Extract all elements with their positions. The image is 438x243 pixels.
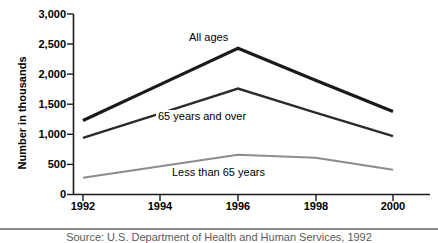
x-axis-ticks bbox=[83, 195, 393, 202]
footer-divider bbox=[0, 228, 438, 230]
series-label-less-than-65: Less than 65 years bbox=[170, 166, 267, 178]
series-label-65-and-over: 65 years and over bbox=[156, 110, 248, 122]
series-label-all-ages: All ages bbox=[187, 31, 230, 43]
footer-caption: Source: U.S. Department of Health and Hu… bbox=[0, 231, 438, 243]
y-axis-ticks bbox=[67, 14, 74, 195]
